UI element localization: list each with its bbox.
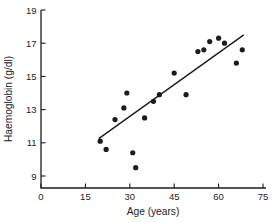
haemoglobin-vs-age-scatter-chart: 0153045607591113151719 Age (years) Haemo… xyxy=(0,0,275,222)
data-point xyxy=(112,117,117,122)
data-point xyxy=(201,47,206,52)
y-tick-label: 17 xyxy=(26,38,37,49)
y-tick-label: 13 xyxy=(26,104,37,115)
data-point xyxy=(216,36,221,41)
data-point xyxy=(195,49,200,54)
y-tick-label: 15 xyxy=(26,71,37,82)
data-point xyxy=(157,92,162,97)
x-tick-label: 15 xyxy=(80,191,91,202)
data-point xyxy=(207,39,212,44)
data-point xyxy=(104,147,109,152)
data-point xyxy=(172,70,177,75)
data-point xyxy=(222,41,227,46)
chart-plot-area: 0153045607591113151719 xyxy=(26,5,268,203)
data-point xyxy=(240,47,245,52)
y-tick-label: 19 xyxy=(26,5,37,16)
data-point xyxy=(121,105,126,110)
x-tick-label: 75 xyxy=(258,191,269,202)
x-tick-label: 60 xyxy=(213,191,224,202)
y-tick-label: 11 xyxy=(27,137,37,148)
data-point xyxy=(151,99,156,104)
data-point xyxy=(183,92,188,97)
x-axis-title: Age (years) xyxy=(127,206,180,217)
data-point xyxy=(133,165,138,170)
x-tick-label: 30 xyxy=(125,191,136,202)
y-tick-label: 9 xyxy=(31,171,36,182)
y-axis-title: Haemoglobin (g/dl) xyxy=(3,56,14,142)
x-tick-label: 0 xyxy=(38,191,43,202)
scatter-plot-figure: 0153045607591113151719 Age (years) Haemo… xyxy=(0,0,275,222)
data-point xyxy=(130,150,135,155)
x-tick-label: 45 xyxy=(169,191,180,202)
data-point xyxy=(124,90,129,95)
data-point xyxy=(142,115,147,120)
data-point xyxy=(98,139,103,144)
data-point xyxy=(234,61,239,66)
trend-line xyxy=(99,35,244,139)
